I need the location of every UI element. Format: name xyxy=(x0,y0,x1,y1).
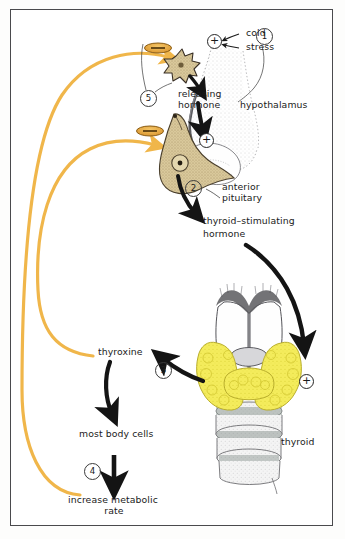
thyroid-label: thyroid xyxy=(281,436,315,448)
step-number-5: 5 xyxy=(140,90,157,107)
thyroxine-to-cells-arrow xyxy=(106,362,112,414)
most-body-cells-label: most body cells xyxy=(79,428,153,440)
negative-feedback-oval-pituitary xyxy=(137,126,164,136)
thyroxine-label: thyroxine xyxy=(98,346,143,358)
increase-metabolic-rate-label-line1: increase metabolic xyxy=(68,494,158,506)
step-number-4: 4 xyxy=(84,463,101,480)
thyroid-illustration xyxy=(197,283,302,494)
tsh-label-line1: thyroid–stimulating xyxy=(203,215,295,227)
anterior-pituitary-label-line2: pituitary xyxy=(222,192,262,204)
trachea-rings xyxy=(216,402,282,494)
anterior-pituitary-label-line1: anterior xyxy=(222,181,260,193)
stimulus-plus-sign: + xyxy=(207,34,222,49)
step-number-1: 1 xyxy=(256,28,273,45)
feedback-step5-leader-line-2 xyxy=(155,83,172,92)
diagram-artwork xyxy=(0,0,345,539)
tsh-label-line2: hormone xyxy=(203,228,245,240)
step-number-2: 2 xyxy=(185,180,202,197)
figure-canvas: cold stress + releasing hormone hypothal… xyxy=(0,0,345,539)
negative-feedback-oval-hypothalamus xyxy=(145,43,172,53)
hypothalamus-label: hypothalamus xyxy=(240,99,308,111)
feedback-step5-leader-line xyxy=(142,44,146,90)
releasing-hormone-label-line2: hormone xyxy=(178,99,220,111)
cold-stimulus-arrow xyxy=(224,34,239,40)
releasing-hormone-label-line1: releasing xyxy=(178,88,221,100)
negative-feedback-short-path xyxy=(38,141,155,356)
increase-metabolic-rate-label-line2: rate xyxy=(68,505,160,517)
anterior-pituitary-leader-line xyxy=(206,189,220,198)
thyroid-plus-sign: + xyxy=(299,374,314,389)
neurosecretory-cell-icon xyxy=(164,49,200,83)
step-number-3: 3 xyxy=(155,362,172,379)
pituitary-plus-sign: + xyxy=(199,133,214,148)
